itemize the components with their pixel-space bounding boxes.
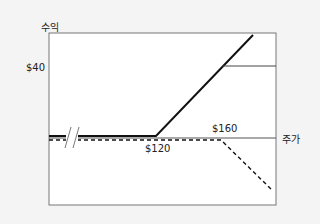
y-tick-40: $40 <box>26 62 45 73</box>
x-tick-160: $160 <box>212 123 237 134</box>
y-axis-label: 수익 <box>41 19 59 34</box>
x-axis-label: 주가 <box>282 131 300 146</box>
x-tick-120: $120 <box>145 143 170 154</box>
plot-frame <box>49 33 276 205</box>
